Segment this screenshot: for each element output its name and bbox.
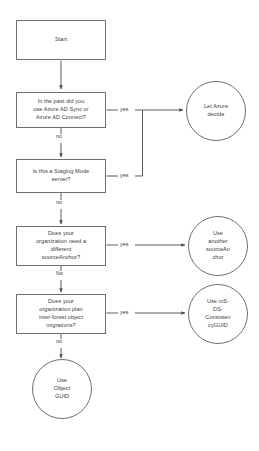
node-ms-ds-consistency-guid-label: Use mS- DS- Consisten cyGUID	[202, 298, 233, 330]
edge-label-different-anchor-no: No	[55, 271, 64, 276]
node-past-sync[interactable]: In the past did you use Azure AD Sync or…	[16, 92, 106, 128]
node-past-sync-label: In the past did you use Azure AD Sync or…	[30, 98, 91, 122]
node-ms-ds-consistency-guid[interactable]: Use mS- DS- Consisten cyGUID	[188, 284, 248, 344]
node-let-azure-decide[interactable]: Let Azure decide	[186, 81, 246, 141]
node-different-anchor-label: Does your organization need a different …	[33, 230, 89, 262]
connector-yes-trunk-to-let-azure-decide	[143, 110, 184, 176]
node-let-azure-decide-label: Let Azure decide	[201, 103, 231, 119]
node-staging-mode-label: Is this a Staging Mode server?	[30, 168, 92, 184]
node-object-guid-label: Use Object GUID	[51, 377, 73, 401]
node-inter-forest[interactable]: Does your organization plan inter-forest…	[16, 294, 106, 334]
edge-label-inter-forest-yes: yes	[119, 310, 129, 315]
node-inter-forest-label: Does your organization plan inter-forest…	[36, 298, 86, 330]
edge-label-past-sync-yes: yes	[119, 107, 129, 112]
node-object-guid[interactable]: Use Object GUID	[32, 359, 92, 419]
edge-label-staging-mode-yes: yes	[119, 173, 129, 178]
node-start[interactable]: Start	[16, 20, 106, 60]
flowchart-canvas: Start In the past did you use Azure AD S…	[0, 0, 259, 451]
edge-label-inter-forest-no: no	[55, 339, 63, 344]
edge-label-different-anchor-yes: yes	[119, 242, 129, 247]
node-another-anchor-label: Use another sourceAn chor	[203, 230, 233, 262]
edge-label-staging-mode-no: no	[55, 200, 63, 205]
node-staging-mode[interactable]: Is this a Staging Mode server?	[16, 159, 106, 193]
node-different-anchor[interactable]: Does your organization need a different …	[16, 226, 106, 266]
node-another-anchor[interactable]: Use another sourceAn chor	[188, 216, 248, 276]
node-start-label: Start	[52, 36, 70, 44]
edge-label-past-sync-no: no	[55, 134, 63, 139]
